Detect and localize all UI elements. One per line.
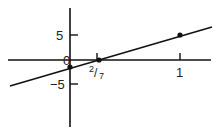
y-label-minus5: −5 — [50, 77, 65, 92]
origin-label: 0 — [63, 53, 70, 68]
y-label-5: 5 — [56, 28, 63, 43]
line-graph: 5 −5 0 1 2 / 7 — [0, 0, 218, 129]
point-x-intercept — [96, 57, 101, 62]
x-label-2-7-denominator: 7 — [99, 71, 104, 81]
x-label-2-7-slash: / — [94, 66, 98, 80]
x-label-1: 1 — [176, 65, 183, 80]
point-1-5 — [177, 32, 182, 37]
